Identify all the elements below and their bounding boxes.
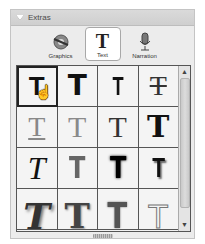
scroll-up-arrow-icon[interactable]: ▲ <box>179 67 190 77</box>
tab-label: Graphics <box>48 53 72 59</box>
microphone-icon <box>138 32 152 52</box>
text-style-sans-bold[interactable]: T ☝ <box>17 66 58 107</box>
text-style-grid: T ☝ T T T T T T T <box>16 65 191 232</box>
disclosure-triangle-icon[interactable] <box>16 15 24 20</box>
tab-text[interactable]: T Text <box>85 27 121 61</box>
text-style-italic-heavy-shadow[interactable]: T <box>17 189 58 230</box>
hand-pointer-icon: ☝ <box>35 84 52 100</box>
text-style-slab-heavy[interactable]: T <box>139 107 180 148</box>
text-style-thin-outline[interactable]: T <box>139 189 180 230</box>
text-style-sans-condensed[interactable]: T <box>98 66 139 107</box>
tab-label: Text <box>97 52 108 58</box>
text-style-underline-gray[interactable]: T <box>17 107 58 148</box>
text-style-gray-block[interactable]: T <box>58 148 99 189</box>
extras-header[interactable]: Extras <box>11 10 194 26</box>
graphics-icon <box>52 32 70 52</box>
extras-panel: Extras Graphics T Text <box>10 9 195 239</box>
text-style-serif-shadow[interactable]: T <box>58 189 99 230</box>
tab-label: Narration <box>132 53 157 59</box>
text-style-sans-heavy[interactable]: T <box>58 66 99 107</box>
grid-scrollbar[interactable]: ▲ ▼ <box>178 66 190 231</box>
text-style-strikethrough-serif[interactable]: T <box>139 66 180 107</box>
text-style-serif-dark[interactable]: T <box>98 107 139 148</box>
tab-narration[interactable]: Narration <box>127 27 163 61</box>
scroll-down-arrow-icon[interactable]: ▼ <box>179 220 190 230</box>
text-icon: T <box>96 31 109 51</box>
panel-title: Extras <box>28 13 51 22</box>
text-style-gray-block-blur[interactable]: T <box>98 189 139 230</box>
text-style-blur-black[interactable]: T <box>98 148 139 189</box>
text-style-shadow-black[interactable]: T <box>139 148 180 189</box>
scrollbar-thumb[interactable] <box>180 78 190 208</box>
text-style-italic-serif[interactable]: T <box>17 148 58 189</box>
tab-graphics[interactable]: Graphics <box>43 27 79 61</box>
resize-grip[interactable] <box>93 234 113 238</box>
text-style-serif-gray[interactable]: T <box>58 107 99 148</box>
extras-tabs: Graphics T Text Narration <box>11 27 194 63</box>
